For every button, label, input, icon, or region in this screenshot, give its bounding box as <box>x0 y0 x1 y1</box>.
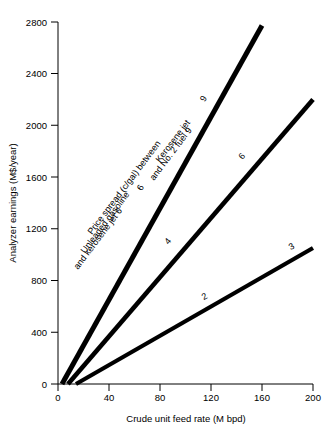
axis-x: 0 40 80 120 160 200 Crude unit feed rate… <box>55 384 321 424</box>
x-tick-label-0: 0 <box>55 392 60 403</box>
data-line-6-9[interactable] <box>62 26 262 385</box>
y-axis-title: Analyzer earnings (M$/year) <box>7 143 18 262</box>
series-tag-3: 3 <box>287 241 296 252</box>
series-tag-9: 9 <box>198 94 209 103</box>
series-tag-6-middle: 6 <box>236 151 247 161</box>
x-tick-label-120: 120 <box>203 392 219 403</box>
y-tick-label-2800: 2800 <box>26 17 47 28</box>
axis-y: 0 400 800 1200 1600 2000 2400 2800 Analy… <box>7 17 58 390</box>
y-tick-label-400: 400 <box>31 327 47 338</box>
data-line-4-6[interactable] <box>68 100 313 385</box>
series-tag-2: 2 <box>200 291 209 302</box>
y-tick-label-0: 0 <box>42 379 47 390</box>
x-tick-label-200: 200 <box>305 392 321 403</box>
y-tick-label-2000: 2000 <box>26 120 47 131</box>
y-tick-label-1600: 1600 <box>26 172 47 183</box>
data-series-group <box>62 26 313 385</box>
x-tick-label-160: 160 <box>254 392 270 403</box>
x-tick-label-80: 80 <box>155 392 166 403</box>
y-tick-label-800: 800 <box>31 275 47 286</box>
chart-figure: 0 400 800 1200 1600 2000 2400 2800 Analy… <box>0 0 324 429</box>
y-tick-label-1200: 1200 <box>26 223 47 234</box>
chart-plot-area: 0 400 800 1200 1600 2000 2400 2800 Analy… <box>0 0 324 429</box>
series-tag-4: 4 <box>162 236 173 246</box>
x-axis-title: Crude unit feed rate (M bpd) <box>126 413 245 424</box>
annotation-group: Price spread (c/gal) between Unleaded ga… <box>72 117 194 271</box>
series-tag-6-steep: 6 <box>135 183 146 192</box>
y-tick-label-2400: 2400 <box>26 68 47 79</box>
x-tick-label-40: 40 <box>104 392 115 403</box>
data-line-2-3[interactable] <box>76 248 313 384</box>
